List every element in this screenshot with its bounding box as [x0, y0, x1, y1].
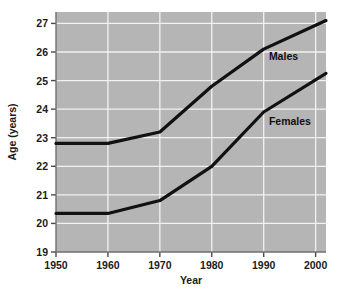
plot-area-background — [56, 12, 326, 252]
y-tick-label: 24 — [36, 103, 48, 115]
y-tick-label: 27 — [36, 17, 48, 29]
x-axis-title: Year — [180, 274, 202, 286]
x-tick-label: 1950 — [44, 259, 68, 271]
y-tick-label: 22 — [36, 160, 48, 172]
age-at-first-marriage-line-chart: 192021222324252627 195019601970198019902… — [0, 0, 341, 291]
x-tick-label: 1980 — [200, 259, 224, 271]
y-tick-label: 21 — [36, 189, 48, 201]
series-label-females: Females — [269, 115, 311, 127]
y-axis-tick-labels: 192021222324252627 — [36, 17, 48, 258]
x-tick-label: 1960 — [96, 259, 120, 271]
y-tick-label: 20 — [36, 217, 48, 229]
x-tick-label: 2000 — [304, 259, 328, 271]
y-tick-label: 19 — [36, 246, 48, 258]
y-tick-label: 26 — [36, 46, 48, 58]
chart-container: 192021222324252627 195019601970198019902… — [0, 0, 341, 291]
y-tick-label: 25 — [36, 75, 48, 87]
series-label-males: Males — [269, 50, 298, 62]
y-axis-title: Age (years) — [6, 103, 18, 160]
x-tick-label: 1990 — [252, 259, 276, 271]
x-tick-label: 1970 — [148, 259, 172, 271]
y-tick-label: 23 — [36, 132, 48, 144]
